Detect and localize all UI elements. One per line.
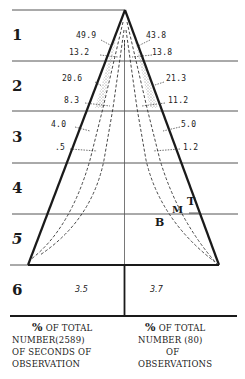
left-row3-outer-value: 4.0 xyxy=(51,120,66,129)
left-column-caption: %OF TOTAL NUMBER(2589) OF SECONDS OF OBS… xyxy=(12,322,122,370)
percent-symbol: % xyxy=(32,321,43,334)
right-row2-inner-value: 11.2 xyxy=(168,96,188,105)
row-label-5: 5 xyxy=(12,230,22,248)
right-row1-outer-value: 43.8 xyxy=(146,31,166,40)
left-row1-inner-value: 13.2 xyxy=(69,48,89,57)
curve-label-t: T xyxy=(187,195,195,208)
right-row2-outer-value: 21.3 xyxy=(166,74,186,83)
left-caption-line-3: OF SECONDS OF xyxy=(12,346,122,358)
right-row3-outer-value: 5.0 xyxy=(181,120,196,129)
right-caption-line-3: OF xyxy=(138,346,245,358)
curve-label-m: M xyxy=(172,204,183,215)
row-label-1: 1 xyxy=(12,26,22,44)
left-caption-line-4: OBSERVATION xyxy=(12,358,122,370)
stipple-bands xyxy=(95,10,158,108)
left-caption-line-1: OF TOTAL xyxy=(46,323,93,333)
row6-left-value: 3.5 xyxy=(75,285,88,294)
right-row1-inner-value: 13.8 xyxy=(152,48,172,57)
left-row2-inner-value: 8.3 xyxy=(64,96,79,105)
left-row3-inner-value: .5 xyxy=(55,143,65,152)
row-label-2: 2 xyxy=(12,77,22,95)
right-caption-line-4: OBSERVATIONS xyxy=(138,358,245,370)
left-row2-outer-value: 20.6 xyxy=(62,74,82,83)
left-caption-line-2: NUMBER(2589) xyxy=(12,334,122,346)
right-column-caption: %OF TOTAL NUMBER (80) OF OBSERVATIONS xyxy=(138,322,245,370)
row6-right-value: 3.7 xyxy=(150,285,163,294)
triangle-outline xyxy=(28,10,219,265)
row-label-4: 4 xyxy=(12,179,22,197)
right-caption-line-2: NUMBER (80) xyxy=(138,334,245,346)
right-row3-inner-value: 1.2 xyxy=(183,143,198,152)
percent-symbol: % xyxy=(145,321,156,334)
row-label-6: 6 xyxy=(12,281,22,299)
left-row1-outer-value: 49.9 xyxy=(76,31,96,40)
right-caption-line-1: OF TOTAL xyxy=(159,323,206,333)
curve-label-b: B xyxy=(155,216,164,229)
row-label-3: 3 xyxy=(12,128,22,146)
